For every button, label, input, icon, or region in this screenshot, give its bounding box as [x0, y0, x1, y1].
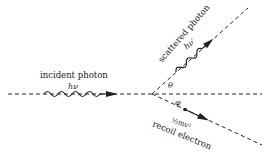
- incident-energy: hν: [68, 82, 78, 91]
- electron-arrow-icon: [197, 113, 209, 121]
- scattered-label: scattered photon: [156, 2, 212, 64]
- incident-label: incident photon: [40, 70, 108, 80]
- incident-arrow-icon: [106, 91, 118, 97]
- theta-label: θ: [168, 81, 173, 90]
- phi-label: φ: [175, 98, 181, 107]
- compton-diagram: incident photon hν scattered photon hν′ …: [0, 0, 272, 159]
